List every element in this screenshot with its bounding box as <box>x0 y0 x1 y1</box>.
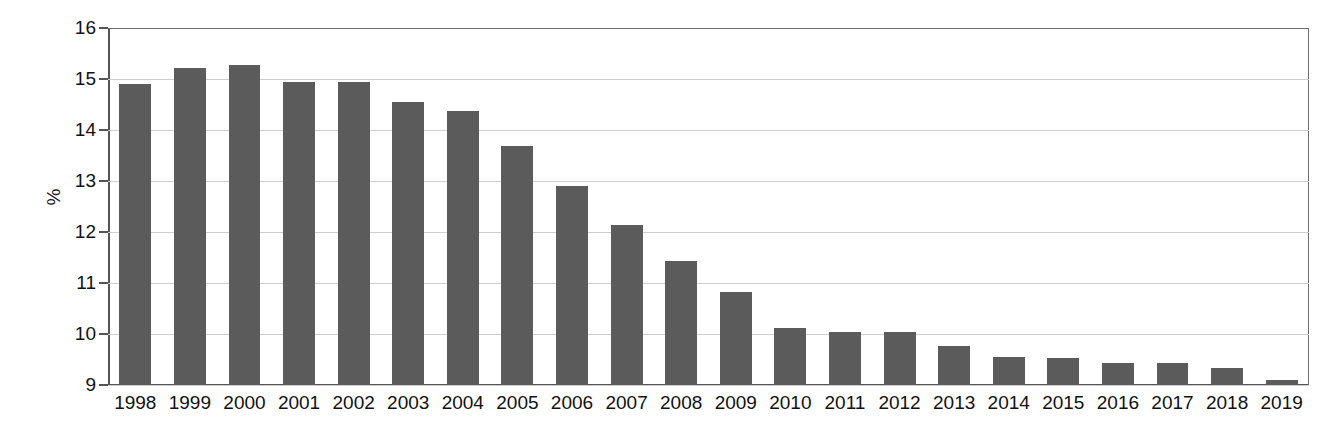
x-tick-label: 2017 <box>1145 392 1200 414</box>
bar <box>1047 358 1079 385</box>
bar <box>611 225 643 385</box>
x-tick-label: 2009 <box>709 392 764 414</box>
x-tick-label: 1999 <box>163 392 218 414</box>
y-tick-mark <box>99 129 108 131</box>
bar <box>938 346 970 385</box>
x-tick-label: 2006 <box>545 392 600 414</box>
x-tick-label: 2013 <box>927 392 982 414</box>
y-tick-label: 16 <box>54 18 96 37</box>
bar <box>665 261 697 385</box>
y-tick-mark <box>99 78 108 80</box>
y-tick-mark <box>99 27 108 29</box>
x-tick-label: 2014 <box>981 392 1036 414</box>
x-tick-label: 2015 <box>1036 392 1091 414</box>
bar <box>829 332 861 385</box>
x-tick-label: 2007 <box>599 392 654 414</box>
y-tick-mark <box>99 180 108 182</box>
x-tick-label: 2010 <box>763 392 818 414</box>
x-tick-label: 2003 <box>381 392 436 414</box>
y-tick-label: 11 <box>54 273 96 292</box>
bar <box>993 357 1025 385</box>
bar <box>447 111 479 385</box>
bar <box>229 65 261 385</box>
bar <box>392 102 424 385</box>
y-tick-mark <box>99 384 108 386</box>
bar <box>1211 368 1243 385</box>
y-tick-label: 10 <box>54 324 96 343</box>
x-tick-label: 2002 <box>326 392 381 414</box>
x-tick-label: 2004 <box>436 392 491 414</box>
y-tick-label: 9 <box>54 375 96 394</box>
x-tick-label: 1998 <box>108 392 163 414</box>
bar <box>119 84 151 385</box>
x-tick-label: 2016 <box>1091 392 1146 414</box>
x-tick-label: 2018 <box>1200 392 1255 414</box>
bar <box>774 328 806 385</box>
y-tick-label: 13 <box>54 171 96 190</box>
x-tick-label: 2005 <box>490 392 545 414</box>
y-tick-mark <box>99 333 108 335</box>
bar <box>884 332 916 385</box>
x-tick-label: 2019 <box>1254 392 1309 414</box>
gridline <box>108 79 1309 80</box>
x-tick-label: 2012 <box>872 392 927 414</box>
bar <box>1157 363 1189 385</box>
gridline <box>108 385 1309 386</box>
x-tick-label: 2011 <box>818 392 873 414</box>
y-tick-label: 15 <box>54 69 96 88</box>
y-axis-tick-labels: 910111213141516 <box>44 0 96 437</box>
bar <box>1102 363 1134 385</box>
bar <box>1266 380 1298 385</box>
x-tick-label: 2000 <box>217 392 272 414</box>
y-tick-label: 14 <box>54 120 96 139</box>
y-tick-mark <box>99 231 108 233</box>
bar <box>720 292 752 385</box>
bar <box>338 82 370 385</box>
bar-chart: % 910111213141516 1998199920002001200220… <box>0 0 1328 437</box>
x-tick-label: 2001 <box>272 392 327 414</box>
bar <box>556 186 588 385</box>
bar <box>501 146 533 385</box>
x-tick-label: 2008 <box>654 392 709 414</box>
y-tick-label: 12 <box>54 222 96 241</box>
y-tick-mark <box>99 282 108 284</box>
bar <box>174 68 206 385</box>
plot-area <box>108 28 1309 385</box>
bar <box>283 82 315 385</box>
